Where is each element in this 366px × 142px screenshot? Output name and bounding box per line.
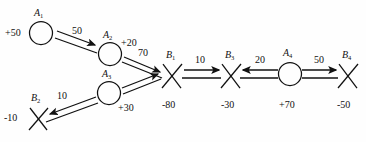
node-B3-cross [221, 64, 241, 88]
edge-cost-A4-B4: 50 [314, 55, 324, 65]
node-label-A2: A2 [103, 30, 112, 40]
node-value-A1: +50 [5, 28, 21, 38]
edge-cost-B1-B3: 10 [195, 55, 205, 65]
node-value-B1: -80 [162, 100, 175, 110]
node-label-A3: A3 [102, 69, 111, 79]
node-label-B4: B4 [342, 50, 351, 60]
node-value-B2: -10 [4, 113, 17, 123]
node-B4-cross [338, 64, 358, 88]
node-value-A4: +70 [279, 100, 295, 110]
node-label-B1: B1 [166, 50, 175, 60]
edge-B1-B3 [182, 70, 221, 78]
edge-cost-A2-B1: 70 [138, 48, 148, 58]
node-B2-cross [29, 108, 48, 130]
node-A2-circle [99, 43, 122, 66]
edge-cost-A1-A2: 50 [72, 26, 82, 36]
node-value-A3: +30 [118, 103, 134, 113]
node-label-A4: A4 [283, 48, 292, 58]
node-label-A1: A1 [34, 8, 43, 18]
node-value-A2: +20 [121, 38, 137, 48]
edge-A3-B1 [122, 74, 161, 94]
network-graphics [0, 0, 366, 142]
node-A1-circle [30, 22, 53, 45]
node-label-B3: B3 [225, 50, 234, 60]
node-label-B2: B2 [31, 93, 40, 103]
diagram-canvas: A1 A2 A3 A4 B1 B2 B3 B4 +50 +20 +30 +70 … [0, 0, 366, 142]
node-value-B4: -50 [337, 100, 350, 110]
edge-cost-A3-B2: 10 [57, 91, 67, 101]
node-B1-cross [162, 64, 182, 88]
node-value-B3: -30 [221, 100, 234, 110]
edge-A4-B4 [302, 70, 338, 78]
edge-A3-B2 [46, 97, 98, 122]
edge-cost-A4-B3: 20 [255, 55, 265, 65]
node-A4-circle [279, 63, 302, 86]
edge-A4-B3 [240, 70, 278, 78]
